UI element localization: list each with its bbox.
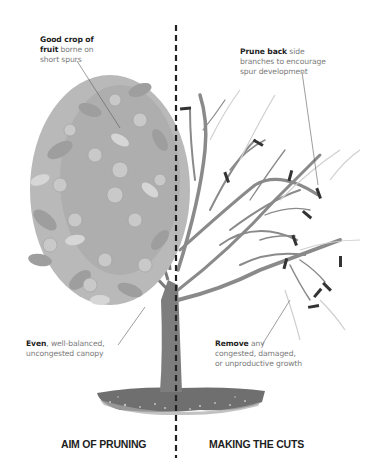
callout-text: , well-balanced, bbox=[46, 339, 104, 348]
callout-bold: Remove bbox=[215, 339, 249, 348]
pruning-diagram: Good crop of fruit borne on short spurs … bbox=[0, 0, 376, 470]
heading-making-the-cuts: MAKING THE CUTS bbox=[209, 438, 304, 450]
faint-branches bbox=[210, 90, 360, 340]
callout-text: congested, damaged, bbox=[215, 349, 302, 359]
leafy-canopy bbox=[27, 75, 190, 305]
heading-aim-of-pruning: AIM OF PRUNING bbox=[61, 438, 146, 450]
callout-text: or unproductive growth bbox=[215, 359, 302, 369]
callout-text: short spurs bbox=[40, 55, 94, 65]
callout-bold: Good crop of bbox=[40, 35, 94, 44]
callout-text: spur development bbox=[240, 67, 326, 77]
bare-branches bbox=[178, 95, 340, 300]
callout-even-canopy: Even, well-balanced, uncongested canopy bbox=[26, 339, 105, 359]
callout-bold: fruit bbox=[40, 45, 58, 54]
callout-text: borne on bbox=[58, 45, 93, 54]
callout-text: side bbox=[287, 47, 304, 56]
callout-remove: Remove any congested, damaged, or unprod… bbox=[215, 339, 302, 369]
callout-good-crop: Good crop of fruit borne on short spurs bbox=[40, 35, 94, 65]
callout-bold: Even bbox=[26, 339, 46, 348]
callout-text: branches to encourage bbox=[240, 57, 326, 67]
callout-text: uncongested canopy bbox=[26, 349, 105, 359]
callout-prune-back: Prune back side branches to encourage sp… bbox=[240, 47, 326, 77]
trunk bbox=[160, 280, 182, 392]
callout-bold: Prune back bbox=[240, 47, 287, 56]
callout-text: any bbox=[249, 339, 265, 348]
